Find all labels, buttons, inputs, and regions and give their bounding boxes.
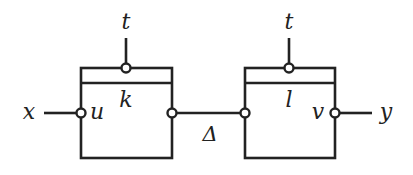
external-output-label: y (379, 99, 393, 124)
connection-label: Δ (201, 122, 217, 146)
block-k-input-port-label: u (90, 99, 104, 124)
block-l-control-label: t (285, 9, 294, 34)
block-l-input-port (241, 109, 250, 118)
block-k: t k u (77, 9, 177, 158)
block-k-label: k (119, 87, 132, 112)
block-l: t l v (241, 9, 340, 158)
block-l-output-port-label: v (312, 99, 325, 124)
block-k-output-port (168, 109, 177, 118)
block-l-control-port (285, 64, 294, 73)
external-input-label: x (23, 99, 36, 124)
block-k-control-label: t (122, 9, 131, 34)
block-k-control-port (122, 64, 131, 73)
diagram-canvas: t k u t l v x y Δ (0, 0, 413, 175)
block-l-output-port (331, 109, 340, 118)
block-l-label: l (285, 87, 292, 112)
block-k-input-port (77, 109, 86, 118)
